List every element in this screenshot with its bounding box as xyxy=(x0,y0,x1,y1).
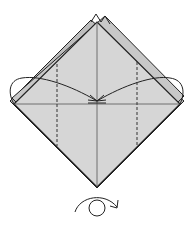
turn-over-icon xyxy=(75,198,118,216)
origami-diagram xyxy=(0,0,190,230)
